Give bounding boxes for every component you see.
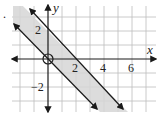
x-tick-6: 6	[128, 61, 134, 75]
y-tick-neg2: −2	[31, 80, 44, 94]
x-axis-label: x	[146, 42, 153, 57]
y-tick-2: 2	[35, 23, 41, 37]
problem-marker: .	[3, 7, 6, 21]
x-tick-4: 4	[100, 61, 106, 75]
x-tick-2: 2	[72, 61, 78, 75]
y-axis-label: y	[51, 0, 59, 15]
graph: . y x 2 −2 2 4 6	[0, 0, 160, 121]
